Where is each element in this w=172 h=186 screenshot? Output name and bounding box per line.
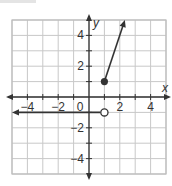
x-tick-label: −4: [21, 100, 35, 114]
ray-upper-arrow: [120, 20, 126, 28]
ray-lower-arrow: [12, 109, 19, 115]
ray-upper-line: [104, 23, 124, 82]
y-tick-label: −2: [70, 121, 84, 135]
x-axis-arrow-left: [6, 94, 13, 100]
x-tick-label: 2: [116, 100, 123, 114]
piecewise-function-graph: x y −4−2024−4−224: [0, 0, 172, 186]
ray-upper-closed-point: [101, 78, 108, 85]
y-axis-label: y: [92, 16, 100, 30]
y-tick-label: 4: [77, 28, 84, 42]
y-tick-label: 2: [77, 59, 84, 73]
y-tick-label: −4: [70, 152, 84, 166]
y-axis-arrow-up: [86, 14, 92, 21]
x-tick-label: −2: [51, 100, 65, 114]
x-tick-label: 4: [147, 100, 154, 114]
x-tick-label: 0: [77, 100, 84, 114]
axes: [6, 14, 171, 180]
x-axis-label: x: [161, 81, 169, 95]
y-axis-arrow-down: [86, 173, 92, 180]
ray-lower-open-point: [101, 109, 108, 116]
